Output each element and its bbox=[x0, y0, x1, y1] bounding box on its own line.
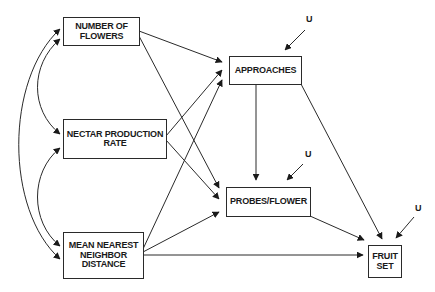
edge-probes-fruitset bbox=[310, 216, 364, 240]
edge-approaches-fruitset bbox=[301, 84, 382, 239]
residual-label-approaches: U bbox=[306, 14, 313, 24]
residual-probes bbox=[287, 164, 303, 180]
node-nectar-production-rate: NECTAR PRODUCTION RATE bbox=[63, 119, 167, 159]
node-number-of-flowers: NUMBER OF FLOWERS bbox=[63, 17, 140, 46]
residual-label-fruitset: U bbox=[415, 203, 422, 213]
residual-fruitset bbox=[396, 217, 414, 238]
correlation-flowers-distance bbox=[19, 29, 60, 259]
node-mean-nearest-neighbor-distance: MEAN NEAREST NEIGHBOR DISTANCE bbox=[63, 232, 144, 279]
node-probes-per-flower: PROBES/FLOWER bbox=[226, 187, 311, 217]
correlation-nectar-distance bbox=[38, 148, 61, 246]
residual-label-probes: U bbox=[305, 149, 312, 159]
edge-flowers-approaches bbox=[139, 31, 222, 62]
edge-nectar-probes bbox=[166, 140, 219, 199]
edge-distance-probes bbox=[143, 212, 219, 252]
residual-approaches bbox=[285, 30, 305, 50]
path-diagram: NUMBER OF FLOWERS NECTAR PRODUCTION RATE… bbox=[0, 0, 435, 292]
node-approaches: APPROACHES bbox=[229, 56, 302, 85]
edge-distance-approaches bbox=[143, 80, 222, 249]
node-fruit-set: FRUIT SET bbox=[368, 245, 402, 278]
